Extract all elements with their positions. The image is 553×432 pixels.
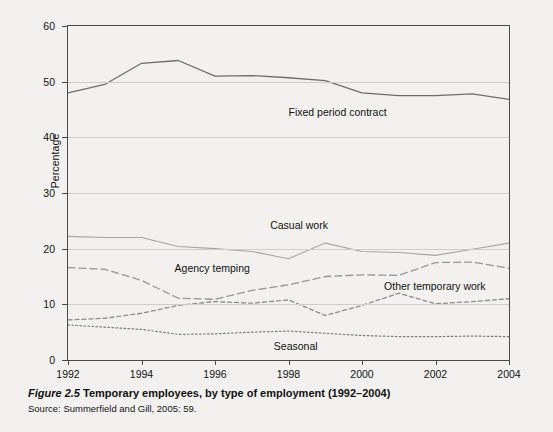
y-tick-mark-50 bbox=[62, 82, 67, 83]
x-tick-label-2004: 2004 bbox=[484, 369, 534, 380]
series-label-seasonal: Seasonal bbox=[274, 341, 318, 352]
y-axis-title: Percentage bbox=[49, 101, 61, 221]
y-tick-mark-20 bbox=[62, 249, 67, 250]
x-tick-label-1992: 1992 bbox=[43, 369, 93, 380]
y-tick-label-20: 20 bbox=[33, 244, 55, 255]
series-label-fixed-period-contract: Fixed period contract bbox=[289, 107, 387, 118]
y-tick-mark-0 bbox=[62, 360, 67, 361]
figure-caption-text: Temporary employees, by type of employme… bbox=[83, 387, 390, 399]
gridline-y-30 bbox=[68, 193, 509, 194]
y-tick-label-40: 40 bbox=[33, 132, 55, 143]
figure-container: Percentage 0102030405060 199219941996199… bbox=[0, 0, 553, 432]
figure-number: Figure 2.5 bbox=[28, 387, 80, 399]
gridline-y-40 bbox=[68, 137, 509, 138]
y-tick-label-60: 60 bbox=[33, 21, 55, 32]
gridline-y-20 bbox=[68, 249, 509, 250]
y-tick-mark-30 bbox=[62, 193, 67, 194]
gridline-y-50 bbox=[68, 82, 509, 83]
x-tick-label-2002: 2002 bbox=[411, 369, 461, 380]
x-tick-mark-2004 bbox=[509, 360, 510, 365]
figure-source: Source: Summerfield and Gill, 2005: 59. bbox=[28, 402, 538, 415]
y-tick-label-50: 50 bbox=[33, 77, 55, 88]
series-line-seasonal bbox=[68, 325, 509, 337]
x-tick-mark-1994 bbox=[142, 360, 143, 365]
figure-caption-block: Figure 2.5 Temporary employees, by type … bbox=[28, 386, 538, 415]
series-line-casual-work bbox=[68, 236, 509, 258]
x-tick-mark-1998 bbox=[289, 360, 290, 365]
figure-caption: Figure 2.5 Temporary employees, by type … bbox=[28, 386, 538, 401]
y-tick-label-0: 0 bbox=[33, 355, 55, 366]
x-tick-label-1998: 1998 bbox=[264, 369, 314, 380]
series-label-other-temporary-work: Other temporary work bbox=[384, 281, 486, 292]
x-tick-label-1994: 1994 bbox=[117, 369, 167, 380]
chart-plot-area bbox=[67, 25, 510, 361]
y-tick-mark-10 bbox=[62, 304, 67, 305]
series-line-fixed-period-contract bbox=[68, 61, 509, 100]
series-line-other-temporary-work bbox=[68, 293, 509, 320]
gridline-y-10 bbox=[68, 304, 509, 305]
x-tick-label-1996: 1996 bbox=[190, 369, 240, 380]
x-tick-mark-2000 bbox=[362, 360, 363, 365]
y-tick-mark-60 bbox=[62, 26, 67, 27]
x-tick-label-2000: 2000 bbox=[337, 369, 387, 380]
y-tick-mark-40 bbox=[62, 137, 67, 138]
y-tick-label-30: 30 bbox=[33, 188, 55, 199]
y-tick-label-10: 10 bbox=[33, 299, 55, 310]
series-label-casual-work: Casual work bbox=[270, 220, 328, 231]
x-tick-mark-1992 bbox=[68, 360, 69, 365]
x-tick-mark-2002 bbox=[436, 360, 437, 365]
series-label-agency-temping: Agency temping bbox=[175, 263, 250, 274]
x-tick-mark-1996 bbox=[215, 360, 216, 365]
